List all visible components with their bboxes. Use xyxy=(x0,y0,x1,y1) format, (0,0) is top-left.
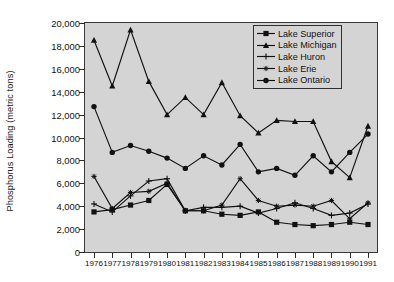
data-point-marker xyxy=(127,27,133,33)
data-point-marker xyxy=(256,198,261,203)
data-point-marker xyxy=(263,54,269,60)
series-lake-superior xyxy=(91,182,370,228)
data-point-marker xyxy=(365,123,371,129)
y-axis-tick-labels: 02,0004,0006,0008,00010,00012,00014,0001… xyxy=(22,0,80,282)
data-point-marker xyxy=(274,220,279,225)
data-point-marker xyxy=(329,198,334,203)
data-point-marker xyxy=(292,173,297,178)
x-tick-label: 1985 xyxy=(249,259,267,268)
y-tick-label: 18,000 xyxy=(28,40,80,51)
x-tick-label: 1990 xyxy=(341,259,359,268)
y-tick-label: 2,000 xyxy=(28,224,80,235)
y-tick-label: 12,000 xyxy=(28,109,80,120)
data-point-marker xyxy=(292,202,297,207)
x-tick-label: 1981 xyxy=(176,259,194,268)
legend-item-lake-erie[interactable]: Lake Erie xyxy=(256,63,337,75)
legend-item-lake-ontario[interactable]: Lake Ontario xyxy=(256,74,337,86)
x-tick-label: 1982 xyxy=(195,259,213,268)
legend-item-lake-michigan[interactable]: Lake Michigan xyxy=(256,40,337,52)
y-tick-mark xyxy=(79,183,85,184)
data-point-marker xyxy=(91,201,97,207)
data-point-marker xyxy=(201,208,206,213)
data-point-marker xyxy=(328,212,334,218)
y-tick-mark xyxy=(79,160,85,161)
series-lake-ontario xyxy=(91,104,370,178)
y-tick-mark xyxy=(79,23,85,24)
y-tick-label: 16,000 xyxy=(28,63,80,74)
x-tick-mark xyxy=(112,253,113,258)
x-tick-label: 1988 xyxy=(304,259,322,268)
data-point-marker xyxy=(311,204,316,209)
x-tick-label: 1987 xyxy=(286,259,304,268)
data-point-marker xyxy=(146,189,151,194)
y-tick-mark xyxy=(79,206,85,207)
data-point-marker xyxy=(347,150,352,155)
data-point-marker xyxy=(91,104,96,109)
data-point-marker xyxy=(328,158,334,164)
data-point-marker xyxy=(110,206,115,211)
x-tick-mark xyxy=(149,253,150,258)
x-tick-label: 1986 xyxy=(268,259,286,268)
data-point-marker xyxy=(164,155,169,160)
legend-item-lake-superior[interactable]: Lake Superior xyxy=(256,28,337,40)
y-tick-mark xyxy=(79,92,85,93)
y-tick-label: 4,000 xyxy=(28,201,80,212)
y-tick-label: 10,000 xyxy=(28,132,80,143)
data-point-marker xyxy=(110,150,115,155)
legend-item-label: Lake Huron xyxy=(276,52,325,62)
x-tick-mark xyxy=(167,253,168,258)
data-point-marker xyxy=(329,222,334,227)
chart-figure: Phosphorus Loading (metric tons) 02,0004… xyxy=(0,0,394,282)
x-tick-label: 1983 xyxy=(213,259,231,268)
x-tick-mark xyxy=(295,253,296,258)
data-point-marker xyxy=(146,149,151,154)
data-point-marker xyxy=(109,83,115,89)
data-point-marker xyxy=(182,94,188,100)
y-tick-label: 8,000 xyxy=(28,155,80,166)
data-point-marker xyxy=(263,66,268,71)
data-point-marker xyxy=(128,202,133,207)
legend-marker-icon xyxy=(256,40,276,51)
data-point-marker xyxy=(219,212,224,217)
x-tick-mark xyxy=(331,253,332,258)
data-point-marker xyxy=(329,169,334,174)
data-point-marker xyxy=(237,203,243,209)
x-tick-label: 1980 xyxy=(158,259,176,268)
data-point-marker xyxy=(164,181,169,186)
legend-item-label: Lake Superior xyxy=(276,29,335,39)
y-tick-mark xyxy=(79,229,85,230)
data-point-marker xyxy=(311,223,316,228)
data-point-marker xyxy=(274,166,279,171)
x-tick-mark xyxy=(313,253,314,258)
x-tick-mark xyxy=(185,253,186,258)
x-tick-label: 1977 xyxy=(103,259,121,268)
legend-marker-icon xyxy=(256,51,276,62)
chart-legend: Lake SuperiorLake MichiganLake HuronLake… xyxy=(253,25,342,89)
data-point-marker xyxy=(256,169,261,174)
series-lake-huron xyxy=(91,176,371,219)
x-tick-mark xyxy=(277,253,278,258)
data-point-marker xyxy=(238,213,243,218)
data-point-marker xyxy=(146,198,151,203)
data-point-marker xyxy=(263,31,268,36)
y-axis-title: Phosphorus Loading (metric tons) xyxy=(0,0,20,282)
data-point-marker xyxy=(263,77,268,82)
y-tick-label: 0 xyxy=(28,247,80,258)
data-point-marker xyxy=(237,142,242,147)
x-tick-label: 1989 xyxy=(322,259,340,268)
data-point-marker xyxy=(219,202,224,207)
x-tick-mark xyxy=(240,253,241,258)
data-point-marker xyxy=(237,113,243,119)
legend-marker-icon xyxy=(256,63,276,74)
y-tick-label: 14,000 xyxy=(28,86,80,97)
data-point-marker xyxy=(274,204,279,209)
legend-item-lake-huron[interactable]: Lake Huron xyxy=(256,51,337,63)
x-tick-mark xyxy=(131,253,132,258)
y-tick-label: 20,000 xyxy=(28,18,80,29)
data-point-marker xyxy=(219,79,225,85)
data-point-marker xyxy=(91,174,96,179)
data-point-marker xyxy=(128,190,133,195)
x-tick-label: 1984 xyxy=(231,259,249,268)
legend-item-label: Lake Michigan xyxy=(276,40,337,50)
x-tick-mark xyxy=(204,253,205,258)
